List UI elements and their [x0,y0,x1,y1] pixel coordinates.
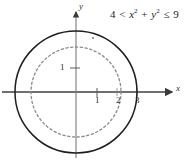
inequality-annotation: 4 < x2 + y2 ≤ 9 [110,8,179,20]
figure-canvas [0,0,191,162]
x-tick-label-2: 2 [116,96,121,105]
inequality-right-value: 9 [173,8,179,20]
inequality-left-operator: < [118,8,126,20]
math-figure-annulus: 4 < x2 + y2 ≤ 9 x y 1 2 3 1 [0,0,191,162]
inequality-term-x-exponent: 2 [134,7,138,15]
inequality-left-value: 4 [110,8,116,20]
x-axis-label: x [176,84,180,93]
y-tick-label-1: 1 [60,63,65,72]
inequality-term-y-exponent: 2 [156,7,160,15]
scan-speck [92,37,94,39]
inequality-plus: + [140,8,148,20]
x-tick-label-1: 1 [95,96,100,105]
y-axis-label: y [79,2,83,11]
inequality-right-operator: ≤ [162,8,170,20]
x-tick-label-3: 3 [135,96,140,105]
